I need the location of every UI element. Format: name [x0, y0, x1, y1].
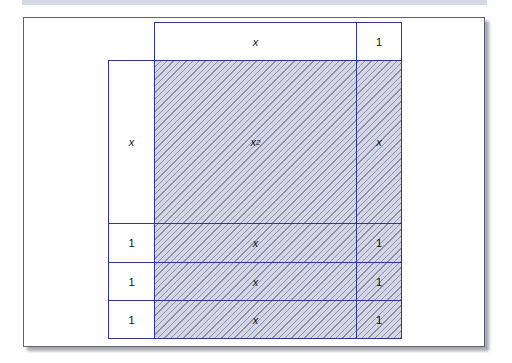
tile-x-row2: x — [154, 262, 357, 301]
left-label-x: x — [108, 60, 155, 224]
tile-1-row3: 1 — [356, 300, 402, 339]
top-decorative-band — [22, 0, 487, 5]
tile-x-right: x — [356, 60, 402, 224]
tile-1-row1: 1 — [356, 223, 402, 263]
tile-x-squared: x2 — [154, 60, 357, 224]
tile-x-row1: x — [154, 223, 357, 263]
tile-x-row3: x — [154, 300, 357, 339]
left-label-1c: 1 — [108, 300, 155, 339]
tile-1-row2: 1 — [356, 262, 402, 301]
top-label-x: x — [154, 22, 357, 61]
left-label-1a: 1 — [108, 223, 155, 263]
top-label-1: 1 — [356, 22, 402, 61]
exponent: 2 — [256, 138, 260, 147]
left-label-1b: 1 — [108, 262, 155, 301]
